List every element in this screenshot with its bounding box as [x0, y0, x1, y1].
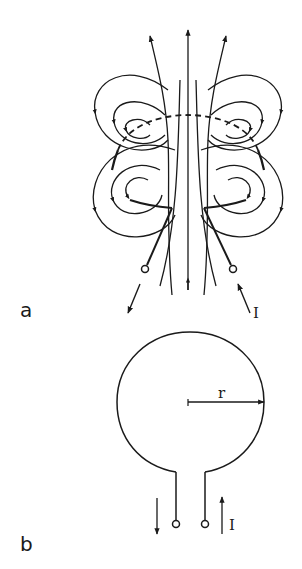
right-lower-loop-mid-b: [214, 195, 263, 214]
panel-b-diagram: [117, 332, 264, 534]
current-loop-front-left: [112, 150, 118, 170]
right-loop-mid-b: [211, 122, 262, 144]
left-loop-outer: [95, 75, 168, 112]
left-lower-loop-inner: [126, 178, 148, 197]
current-loop-bottom-left: [130, 200, 172, 208]
lead-right: [204, 208, 231, 265]
panel-a-diagram: [93, 30, 282, 313]
panel-label-a: a: [20, 300, 32, 320]
terminal-left: [142, 266, 149, 273]
left-loop-inner-b: [126, 130, 150, 138]
lead-left: [147, 208, 172, 265]
figure: I r I: [0, 0, 302, 569]
right-lower-loop-inner: [228, 178, 250, 197]
left-loop-mid-b: [114, 122, 165, 144]
current-label-b: I: [229, 516, 235, 534]
left-lower-loop-mid-b: [113, 195, 162, 214]
terminal-right: [230, 266, 237, 273]
current-arrow-in: [238, 284, 250, 313]
current-label-a: I: [253, 304, 259, 322]
right-lower-loop-mid: [216, 165, 265, 200]
radius-label: r: [218, 384, 226, 402]
current-loop-front-right: [258, 150, 264, 170]
current-arrow-out: [128, 284, 140, 313]
left-loop-inner: [125, 120, 150, 130]
left-lower-loop-mid: [111, 165, 160, 200]
field-line-left-outer: [150, 36, 172, 295]
right-loop-outer: [208, 75, 281, 112]
current-loop-bottom-right: [204, 200, 246, 208]
terminal-b-right: [202, 521, 209, 528]
field-line-right-outer: [204, 36, 226, 295]
panel-label-b: b: [20, 534, 33, 554]
terminal-b-left: [173, 521, 180, 528]
